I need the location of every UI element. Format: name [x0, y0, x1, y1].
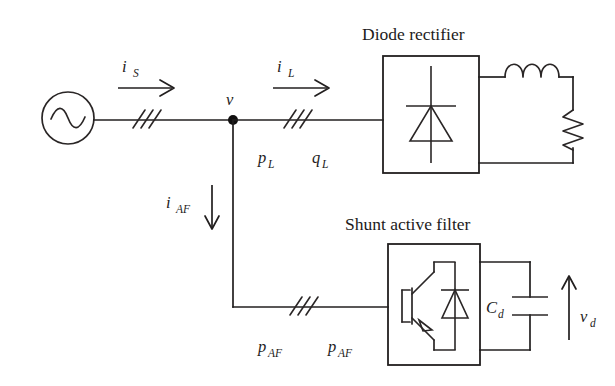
- load-active-power-sublabel: L: [267, 158, 274, 170]
- ac-source: [42, 92, 94, 144]
- filter-power-left-label: p: [257, 337, 266, 356]
- load-current-sublabel: L: [287, 67, 294, 79]
- dc-voltage-arrow: [562, 276, 576, 340]
- load-reactive-power-sublabel: L: [321, 158, 328, 170]
- source-current-label: i: [122, 57, 127, 76]
- source-current-sublabel: S: [133, 67, 139, 79]
- filter-power-left-sublabel: AF: [267, 347, 283, 359]
- load-current-label: i: [277, 57, 282, 76]
- load-active-power-label: p: [257, 148, 266, 167]
- three-phase-line-source: [133, 110, 161, 128]
- load-resistor: [563, 110, 583, 150]
- shunt-active-filter-title: Shunt active filter: [345, 214, 471, 234]
- three-phase-line-load: [284, 110, 312, 128]
- dc-link-capacitor: [512, 297, 548, 315]
- filter-current-label: i: [166, 193, 171, 212]
- load-reactive-power-label: q: [312, 148, 320, 167]
- filter-power-right-label: p: [327, 337, 336, 356]
- diode-rectifier-block: [383, 56, 479, 173]
- load-current-arrow: [273, 80, 329, 96]
- source-current-arrow: [118, 80, 174, 96]
- dc-voltage-sublabel: d: [590, 317, 596, 329]
- three-phase-line-filter: [290, 297, 318, 315]
- dc-voltage-label: v: [580, 307, 588, 326]
- dc-capacitor-label: C: [486, 298, 498, 317]
- circuit-diagram: i S v i L p L q L Diode rectifier: [0, 0, 615, 386]
- shunt-active-filter-block: [388, 244, 480, 365]
- dc-capacitor-sublabel: d: [498, 308, 504, 320]
- rectifier-dc-output-wires: [479, 77, 573, 163]
- node-voltage-label: v: [226, 90, 234, 109]
- diode-rectifier-title: Diode rectifier: [362, 24, 465, 44]
- circuit-canvas: i S v i L p L q L Diode rectifier: [0, 0, 615, 386]
- filter-current-sublabel: AF: [175, 203, 191, 215]
- filter-current-arrow: [205, 185, 219, 229]
- filter-power-right-sublabel: AF: [337, 347, 353, 359]
- load-inductor: [505, 64, 559, 77]
